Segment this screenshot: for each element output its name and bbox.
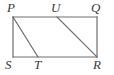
vertex-label-Q: Q bbox=[91, 1, 100, 14]
vertex-label-U: U bbox=[51, 1, 60, 14]
vertex-label-S: S bbox=[5, 58, 12, 71]
segment-group bbox=[13, 17, 97, 57]
vertex-label-R: R bbox=[93, 58, 101, 71]
vertex-label-T: T bbox=[34, 58, 41, 71]
vertex-label-P: P bbox=[7, 1, 15, 14]
geometry-figure: P U Q S T R bbox=[0, 0, 114, 75]
segment-PT bbox=[13, 17, 38, 57]
segment-UR bbox=[57, 17, 97, 57]
